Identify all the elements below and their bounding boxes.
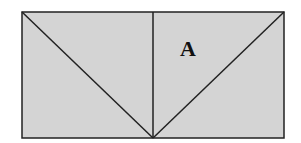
- triangle-rectangle-diagram: A: [0, 0, 301, 143]
- region-label-a: A: [180, 36, 196, 61]
